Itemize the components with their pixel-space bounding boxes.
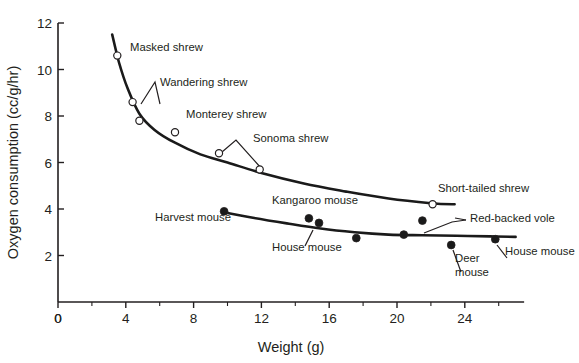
chart-svg: 04812162024024681012Weight (g)Oxygen con… — [0, 0, 579, 363]
data-point[interactable] — [491, 235, 499, 243]
y-axis-title: Oxygen consumption (cc/g/hr) — [5, 66, 21, 259]
x-tick-label: 20 — [389, 311, 404, 326]
point-label: Short-tailed shrew — [438, 182, 530, 194]
x-tick-label: 12 — [254, 311, 269, 326]
leader-line — [424, 220, 466, 233]
point-label: Wandering shrew — [160, 76, 248, 88]
point-label: House mouse — [505, 245, 575, 257]
x-tick-label: 8 — [190, 311, 198, 326]
fit-curve-shrews — [112, 35, 454, 205]
data-point[interactable] — [129, 99, 136, 106]
point-label: Deer — [455, 252, 480, 264]
point-label: Harvest mouse — [155, 211, 231, 223]
point-label: Sonoma shrew — [253, 132, 329, 144]
x-tick-label: 4 — [122, 311, 130, 326]
leader-line — [141, 82, 160, 104]
point-label: mouse — [455, 266, 489, 278]
data-point[interactable] — [429, 201, 436, 208]
point-label: Kangaroo mouse — [272, 194, 358, 206]
y-tick-label: 10 — [37, 63, 52, 78]
data-point[interactable] — [305, 214, 313, 222]
x-axis-title: Weight (g) — [258, 339, 325, 355]
data-point[interactable] — [352, 234, 360, 242]
x-tick-label: 16 — [322, 311, 337, 326]
y-tick-label: 2 — [44, 249, 52, 264]
y-tick-label: 0 — [54, 311, 62, 326]
data-point[interactable] — [447, 241, 455, 249]
point-label: Masked shrew — [130, 41, 204, 53]
point-label: House mouse — [272, 241, 342, 253]
data-point[interactable] — [400, 231, 408, 239]
point-label: Monterey shrew — [186, 108, 267, 120]
data-point[interactable] — [215, 150, 222, 157]
y-tick-label: 12 — [37, 16, 52, 31]
point-label: Red-backed vole — [470, 212, 555, 224]
data-point[interactable] — [419, 217, 427, 225]
leader-line — [455, 218, 466, 220]
y-tick-label: 8 — [44, 109, 52, 124]
y-tick-label: 6 — [44, 156, 52, 171]
data-point[interactable] — [114, 52, 121, 59]
data-point[interactable] — [171, 129, 178, 136]
data-point[interactable] — [315, 219, 323, 227]
x-tick-label: 24 — [457, 311, 473, 326]
chart-figure: 04812162024024681012Weight (g)Oxygen con… — [0, 0, 579, 363]
data-point[interactable] — [256, 166, 263, 173]
data-point[interactable] — [136, 117, 143, 124]
y-tick-label: 4 — [44, 202, 52, 217]
